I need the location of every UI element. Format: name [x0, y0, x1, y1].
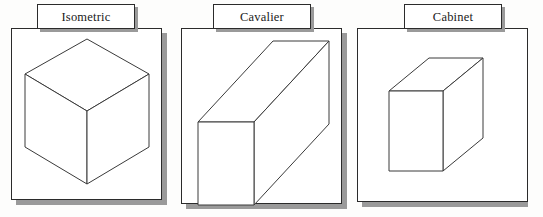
label-isometric-text: Isometric — [38, 11, 134, 24]
cavalier-cube-front-face — [198, 122, 254, 205]
cabinet-cube-drawing — [357, 28, 528, 202]
cabinet-cube-front-face — [389, 91, 443, 171]
label-cabinet: Cabinet — [404, 4, 502, 29]
pictorial-projection-figure: Isometric Cavalier — [0, 0, 543, 217]
label-cabinet-text: Cabinet — [405, 11, 501, 24]
label-cavalier: Cavalier — [213, 4, 311, 29]
label-isometric: Isometric — [37, 4, 135, 29]
isometric-cube-drawing — [11, 28, 162, 200]
label-cavalier-text: Cavalier — [214, 11, 310, 24]
cavalier-cube-drawing — [181, 28, 342, 204]
